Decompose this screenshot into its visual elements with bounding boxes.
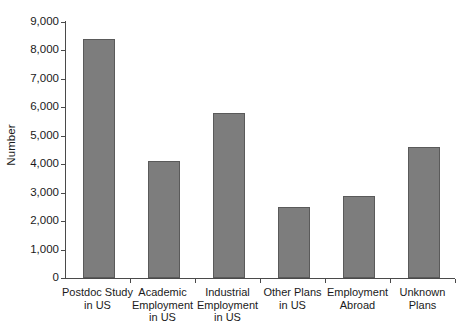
y-axis-tick — [61, 136, 66, 137]
y-axis-tick — [61, 164, 66, 165]
x-axis-tick — [390, 279, 391, 283]
y-axis-tick — [61, 250, 66, 251]
x-axis-category-label: Unknown Plans — [386, 286, 459, 311]
y-axis-tick — [61, 193, 66, 194]
y-axis-tick — [61, 278, 66, 279]
x-axis-category-label: Employment Abroad — [321, 286, 394, 311]
x-axis-tick — [325, 279, 326, 283]
y-axis-tick — [61, 107, 66, 108]
y-axis-tick-label: 1,000 — [4, 244, 59, 256]
y-axis-tick-label: 0 — [4, 272, 59, 284]
y-axis-tick — [61, 50, 66, 51]
x-axis-category-label: Postdoc Study in US — [61, 286, 134, 311]
y-axis-tick-label: 7,000 — [4, 73, 59, 85]
x-axis-category-label: Academic Employment in US — [126, 286, 199, 324]
bar — [148, 161, 180, 278]
y-axis-tick-label: 2,000 — [4, 215, 59, 227]
bar-chart-figure: Number 01,0002,0003,0004,0005,0006,0007,… — [0, 0, 459, 334]
y-axis-tick — [61, 79, 66, 80]
y-axis-tick-label: 3,000 — [4, 187, 59, 199]
y-axis-tick-label: 9,000 — [4, 16, 59, 28]
bar — [343, 196, 375, 278]
y-axis-tick — [61, 22, 66, 23]
y-axis-tick-label: 8,000 — [4, 44, 59, 56]
y-axis-tick — [61, 221, 66, 222]
x-axis-tick — [130, 279, 131, 283]
bar — [408, 147, 440, 278]
y-axis-tick-label: 6,000 — [4, 101, 59, 113]
plot-area — [66, 22, 455, 278]
bar — [213, 113, 245, 278]
bar — [278, 207, 310, 278]
y-axis-tick-label: 4,000 — [4, 158, 59, 170]
x-axis-tick — [455, 279, 456, 283]
y-axis-scale: 01,0002,0003,0004,0005,0006,0007,0008,00… — [0, 0, 59, 334]
x-axis-tick — [195, 279, 196, 283]
x-axis-tick — [260, 279, 261, 283]
x-axis-category-label: Industrial Employment in US — [191, 286, 264, 324]
x-axis-category-label: Other Plans in US — [256, 286, 329, 311]
x-axis-labels: Postdoc Study in USAcademic Employment i… — [65, 286, 455, 334]
y-axis-tick-label: 5,000 — [4, 130, 59, 142]
bar — [83, 39, 115, 278]
